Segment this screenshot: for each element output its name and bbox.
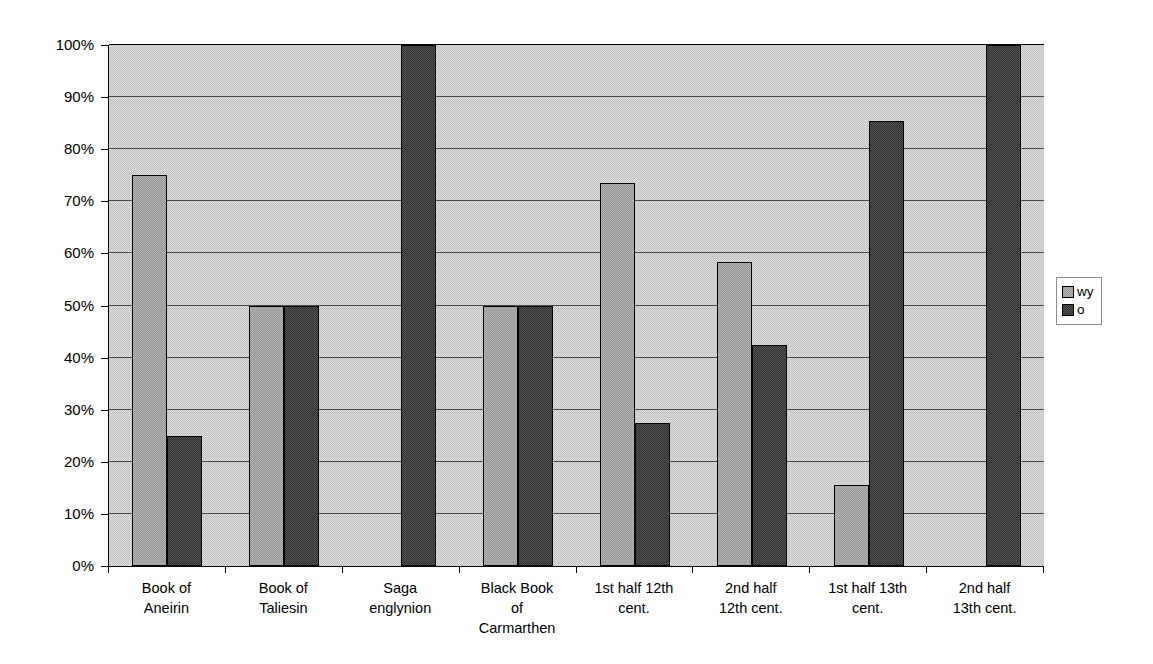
x-axis-tick-mark xyxy=(342,567,343,573)
legend-swatch-o-icon xyxy=(1062,304,1074,316)
y-axis-tick-label: 30% xyxy=(24,402,94,417)
legend-swatch-wy-icon xyxy=(1062,286,1074,298)
legend-item-wy[interactable]: wy xyxy=(1062,283,1097,301)
y-axis-tick-mark xyxy=(101,253,108,254)
x-axis-tick-mark xyxy=(809,567,810,573)
x-axis-tick-mark xyxy=(459,567,460,573)
bar-o[interactable] xyxy=(167,436,202,566)
x-axis-tick-mark xyxy=(576,567,577,573)
x-axis-category-label: 1st half 13thcent. xyxy=(809,578,926,618)
gridline xyxy=(109,200,1044,201)
x-axis-tick-mark xyxy=(692,567,693,573)
y-axis-tick-mark xyxy=(101,566,108,567)
x-axis-category-label: 2nd half13th cent. xyxy=(926,578,1043,618)
x-axis-tick-mark xyxy=(225,567,226,573)
x-axis-category-label: Sagaenglynion xyxy=(342,578,459,618)
y-axis-tick-label: 70% xyxy=(24,193,94,208)
y-axis-tick-mark xyxy=(101,514,108,515)
y-axis-tick-mark xyxy=(101,149,108,150)
legend-label-o: o xyxy=(1077,303,1085,317)
bar-wy[interactable] xyxy=(834,485,869,566)
chart-legend: wy o xyxy=(1056,277,1102,325)
gridline xyxy=(109,252,1044,253)
y-axis-tick-label: 20% xyxy=(24,454,94,469)
x-axis-tick-mark xyxy=(926,567,927,573)
y-axis-tick-mark xyxy=(101,45,108,46)
y-axis-tick-label: 50% xyxy=(24,298,94,313)
bar-o[interactable] xyxy=(635,423,670,566)
y-axis-tick-label: 80% xyxy=(24,141,94,156)
gridline xyxy=(109,44,1044,45)
x-axis-category-label: 2nd half12th cent. xyxy=(692,578,809,618)
x-axis-category-label: Black BookofCarmarthen xyxy=(459,578,576,638)
y-axis-tick-mark xyxy=(101,201,108,202)
plot-area xyxy=(108,45,1044,567)
x-axis-category-label: 1st half 12thcent. xyxy=(576,578,693,618)
y-axis-tick-label: 10% xyxy=(24,506,94,521)
y-axis-tick-label: 0% xyxy=(24,558,94,573)
bar-wy[interactable] xyxy=(600,183,635,566)
y-axis-tick-label: 60% xyxy=(24,245,94,260)
bar-o[interactable] xyxy=(518,306,553,567)
bar-chart: 0%10%20%30%40%50%60%70%80%90%100% Book o… xyxy=(0,0,1153,664)
bar-o[interactable] xyxy=(752,345,787,566)
bar-wy[interactable] xyxy=(132,175,167,566)
bar-wy[interactable] xyxy=(483,306,518,567)
y-axis-tick-mark xyxy=(101,306,108,307)
x-axis-tick-mark xyxy=(1043,567,1044,573)
bar-o[interactable] xyxy=(284,306,319,567)
y-axis-tick-mark xyxy=(101,97,108,98)
y-axis-tick-mark xyxy=(101,462,108,463)
x-axis-category-label: Book ofAneirin xyxy=(108,578,225,618)
bar-wy[interactable] xyxy=(717,262,752,566)
bar-o[interactable] xyxy=(401,45,436,566)
x-axis-category-label: Book ofTaliesin xyxy=(225,578,342,618)
y-axis-tick-mark xyxy=(101,358,108,359)
y-axis-tick-label: 90% xyxy=(24,89,94,104)
bar-wy[interactable] xyxy=(249,306,284,567)
legend-item-o[interactable]: o xyxy=(1062,301,1097,319)
y-axis-tick-label: 100% xyxy=(24,37,94,52)
gridline xyxy=(109,96,1044,97)
x-axis-tick-mark xyxy=(108,567,109,573)
legend-label-wy: wy xyxy=(1077,285,1094,299)
gridline xyxy=(109,148,1044,149)
bar-o[interactable] xyxy=(986,45,1021,566)
bar-o[interactable] xyxy=(869,121,904,566)
y-axis-tick-mark xyxy=(101,410,108,411)
y-axis-tick-label: 40% xyxy=(24,350,94,365)
